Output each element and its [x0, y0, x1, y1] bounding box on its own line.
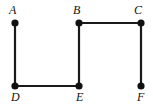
graph-vertex-b: [75, 19, 82, 26]
graph-vertex-f: [137, 82, 144, 89]
graph-vertex-c: [137, 19, 144, 26]
graph-diagram: ABCDEF: [0, 0, 153, 108]
vertex-label-c: C: [134, 4, 142, 16]
vertex-label-b: B: [73, 4, 80, 16]
graph-vertex-e: [75, 82, 82, 89]
vertex-label-a: A: [9, 4, 16, 16]
vertex-label-e: E: [76, 91, 83, 103]
edges-group: [15, 23, 141, 86]
graph-vertex-a: [11, 19, 18, 26]
vertex-label-f: F: [137, 91, 144, 103]
vertex-label-d: D: [11, 91, 20, 103]
graph-vertex-d: [11, 82, 18, 89]
